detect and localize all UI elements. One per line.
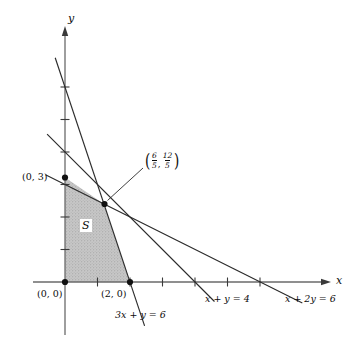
point-0-3: [62, 174, 68, 180]
vertex-label-close-paren: ): [174, 152, 179, 170]
vertex-label-y-numerator: 12: [163, 152, 173, 160]
equation-label-x-plus-y-equals-4: x + y = 4: [205, 294, 250, 304]
equation-label-x-plus-2y-equals-6: x + 2y = 6: [285, 294, 336, 304]
x-axis-label: x: [336, 275, 342, 286]
point-origin: [62, 279, 68, 285]
shaded-region-S: [65, 178, 130, 283]
vertex-label-x-denominator: 5: [152, 160, 157, 169]
vertex-label-y-denominator: 5: [165, 160, 170, 169]
vertex-label-x-numerator: 6: [152, 152, 157, 160]
equation-label-3x-plus-y-equals-6: 3x + y = 6: [115, 310, 166, 320]
vertex-leader-line: [108, 168, 144, 201]
point-label-0-0: (0, 0): [37, 289, 63, 299]
point-2-0: [127, 279, 133, 285]
linear-programming-figure: x y S (0, 3) (0, 0) (2, 0) ( 6 5 , 12 5 …: [0, 0, 358, 341]
point-label-vertex-fraction: ( 6 5 , 12 5 ): [144, 152, 180, 170]
y-axis-label: y: [68, 13, 74, 24]
point-label-0-3: (0, 3): [22, 172, 48, 182]
x-axis-arrowhead: [321, 279, 331, 285]
point-vertex-6-5-12-5: [101, 201, 107, 207]
y-axis-arrowhead: [62, 26, 68, 36]
region-label-S: S: [80, 219, 92, 232]
point-label-2-0: (2, 0): [101, 289, 127, 299]
vertex-label-x-fraction: 6 5: [151, 152, 158, 169]
vertex-label-open-paren: (: [145, 152, 150, 170]
vertex-label-y-fraction: 12 5: [162, 152, 174, 169]
